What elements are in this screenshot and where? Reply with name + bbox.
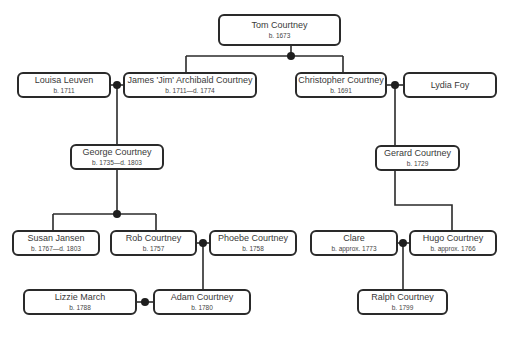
person-dates: b. 1735—d. 1803 [92, 158, 142, 167]
person-name: James 'Jim' Archibald Courtney [128, 75, 253, 86]
person-name: Hugo Courtney [423, 233, 484, 244]
person-rob-courtney[interactable]: Rob Courtney b. 1757 [110, 230, 197, 256]
person-christopher-courtney[interactable]: Christopher Courtney b. 1691 [295, 72, 387, 98]
person-name: George Courtney [82, 147, 151, 158]
person-adam-courtney[interactable]: Adam Courtney b. 1780 [153, 289, 251, 315]
person-dates: b. 1711 [53, 86, 74, 95]
person-name: Gerard Courtney [384, 148, 451, 159]
person-tom-courtney[interactable]: Tom Courtney b. 1673 [218, 14, 341, 46]
union-dot [199, 239, 207, 247]
person-name: Lydia Foy [431, 80, 470, 91]
person-dates: b. 1788 [69, 303, 91, 312]
person-lizzie-march[interactable]: Lizzie March b. 1788 [23, 289, 137, 315]
union-dot [399, 239, 407, 247]
person-dates: b. 1757 [143, 244, 165, 253]
person-dates: b. 1799 [392, 303, 414, 312]
person-dates: b. 1691 [330, 86, 352, 95]
union-dot [391, 81, 399, 89]
person-susan-jansen[interactable]: Susan Jansen b. 1767—d. 1803 [12, 230, 100, 256]
family-tree-canvas: Tom Courtney b. 1673 Louisa Leuven b. 17… [0, 0, 527, 340]
person-name: Phoebe Courtney [218, 233, 288, 244]
union-dot [287, 52, 295, 60]
person-name: Louisa Leuven [35, 75, 94, 86]
person-phoebe-courtney[interactable]: Phoebe Courtney b. 1758 [209, 230, 297, 256]
person-lydia-foy[interactable]: Lydia Foy [403, 72, 497, 98]
person-clare[interactable]: Clare b. approx. 1773 [310, 230, 398, 256]
person-dates: b. 1673 [269, 31, 291, 40]
person-name: Lizzie March [55, 292, 106, 303]
person-name: Clare [343, 233, 365, 244]
person-louisa-leuven[interactable]: Louisa Leuven b. 1711 [17, 72, 111, 98]
union-dot [141, 298, 149, 306]
person-name: Susan Jansen [27, 233, 84, 244]
person-james-jim-archibald-courtney[interactable]: James 'Jim' Archibald Courtney b. 1711—d… [123, 72, 257, 98]
person-dates: b. 1780 [191, 303, 213, 312]
person-name: Rob Courtney [126, 233, 182, 244]
person-gerard-courtney[interactable]: Gerard Courtney b. 1729 [375, 145, 460, 171]
person-dates: b. approx. 1766 [430, 244, 475, 253]
person-hugo-courtney[interactable]: Hugo Courtney b. approx. 1766 [409, 230, 497, 256]
union-dot [113, 210, 121, 218]
person-name: Tom Courtney [251, 20, 307, 31]
person-ralph-courtney[interactable]: Ralph Courtney b. 1799 [357, 289, 448, 315]
person-george-courtney[interactable]: George Courtney b. 1735—d. 1803 [70, 144, 164, 170]
union-dot [113, 81, 121, 89]
person-dates: b. 1711—d. 1774 [165, 86, 214, 95]
person-name: Adam Courtney [171, 292, 234, 303]
person-dates: b. approx. 1773 [331, 244, 376, 253]
person-name: Ralph Courtney [371, 292, 434, 303]
person-dates: b. 1758 [242, 244, 264, 253]
person-name: Christopher Courtney [298, 75, 384, 86]
person-dates: b. 1767—d. 1803 [31, 244, 81, 253]
person-dates: b. 1729 [407, 159, 429, 168]
